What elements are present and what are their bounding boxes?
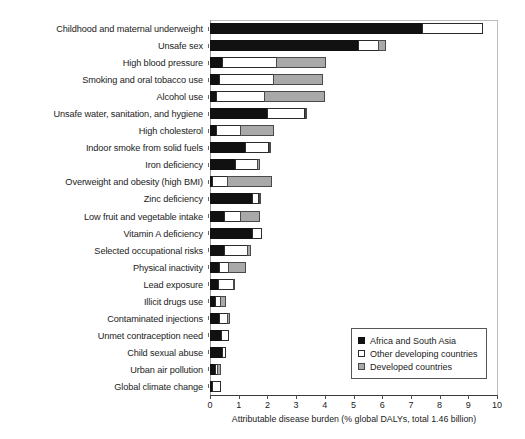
stacked-bar [210,279,235,290]
y-axis-tick [208,282,209,286]
bar-segment-other [218,279,234,290]
bar-segment-other [219,74,274,85]
x-tick-mark [354,395,355,399]
bar-segment-developed [259,193,261,204]
bar-segment-other [212,381,221,392]
y-axis-tick [208,146,209,150]
bar-segment-other [267,108,306,119]
y-axis-tick [208,95,209,99]
x-tick-mark [411,395,412,399]
bar-segment-other [235,159,258,170]
y-axis-tick [208,231,209,235]
bar-segment-developed [257,159,260,170]
x-tick-mark [497,395,498,399]
x-tick-mark [267,395,268,399]
x-axis-ticks: 012345678910 [210,395,498,415]
bar-segment-developed [227,313,230,324]
bar-row-label: Alcohol use [157,92,203,102]
bar-row: Indoor smoke from solid fuels [210,139,497,157]
filled-black-square-icon [358,337,365,344]
x-tick-label: 2 [265,400,270,410]
bar-row-label: Unsafe water, sanitation, and hygiene [53,109,203,119]
bar-row: Illicit drugs use [210,293,497,311]
legend-item-developed: Developed countries [358,360,478,373]
y-axis-tick [208,27,209,31]
bar-segment-africa [210,211,224,222]
bar-row-label: Unsafe sex [158,41,203,51]
bar-segment-other [222,347,226,358]
legend-item-other-developing: Other developing countries [358,347,478,360]
bar-row: Unsafe sex [210,37,497,55]
bar-row-label: Illicit drugs use [144,297,203,307]
y-axis-tick [208,163,209,167]
x-tick-mark [468,395,469,399]
bar-row: Childhood and maternal underweight [210,20,497,38]
bar-row-label: Iron deficiency [145,160,203,170]
bar-segment-other [212,176,228,187]
bar-segment-other [422,23,484,34]
x-tick-label: 1 [236,400,241,410]
bar-segment-africa [210,347,223,358]
bar-row: High cholesterol [210,122,497,140]
stacked-bar [210,176,272,187]
y-axis-tick [208,265,209,269]
bar-segment-developed [220,296,226,307]
y-axis-tick [208,214,209,218]
y-axis-tick [208,384,209,388]
y-axis-tick [208,180,209,184]
stacked-bar-chart: Childhood and maternal underweightUnsafe… [0,0,525,439]
bar-row: Alcohol use [210,88,497,106]
bar-segment-developed [378,40,387,51]
stacked-bar [210,23,483,34]
bar-segment-africa [210,142,246,153]
stacked-bar [210,262,246,273]
bar-row-label: Overweight and obesity (high BMI) [65,177,203,187]
stacked-bar [210,142,271,153]
x-tick-mark [210,395,211,399]
y-axis-tick [208,61,209,65]
bar-row: Low fruit and vegetable intake [210,208,497,226]
bar-row: Lead exposure [210,276,497,294]
bar-segment-africa [210,108,267,119]
bar-segment-africa [210,23,422,34]
bar-row: Iron deficiency [210,156,497,174]
filled-gray-square-icon [358,363,365,370]
bar-row: Contaminated injections [210,310,497,328]
x-tick-mark [382,395,383,399]
hollow-white-square-icon [358,350,365,357]
y-axis-tick [208,112,209,116]
bar-segment-africa [210,40,359,51]
x-axis-label: Attributable disease burden (% global DA… [210,414,498,424]
bar-row: Zinc deficiency [210,190,497,208]
bar-segment-developed [227,176,271,187]
x-tick-mark [239,395,240,399]
stacked-bar [210,364,221,375]
y-axis-tick [208,299,209,303]
bar-segment-africa [210,159,236,170]
bar-row-label: Unmet contraception need [98,331,203,341]
bar-row-label: Selected occupational risks [94,246,203,256]
y-axis-tick [208,129,209,133]
y-axis-tick [208,197,209,201]
stacked-bar [210,193,261,204]
stacked-bar [210,57,326,68]
bar-row-label: Smoking and oral tobacco use [82,75,203,85]
legend-label: Other developing countries [370,349,478,359]
bar-row: Physical inactivity [210,259,497,277]
x-tick-label: 3 [294,400,299,410]
stacked-bar [210,91,325,102]
bar-row: High blood pressure [210,54,497,72]
legend-item-africa-south-asia: Africa and South Asia [358,334,478,347]
bar-segment-other [358,40,378,51]
bar-row-label: Global climate change [114,382,203,392]
bar-row-label: High cholesterol [139,126,203,136]
bar-segment-developed [264,91,324,102]
bar-segment-developed [240,125,274,136]
x-tick-label: 9 [466,400,471,410]
bar-row: Overweight and obesity (high BMI) [210,173,497,191]
stacked-bar [210,245,251,256]
bar-segment-africa [210,245,224,256]
bar-row-label: Indoor smoke from solid fuels [86,143,203,153]
bar-segment-developed [276,57,326,68]
bar-segment-developed [273,74,323,85]
